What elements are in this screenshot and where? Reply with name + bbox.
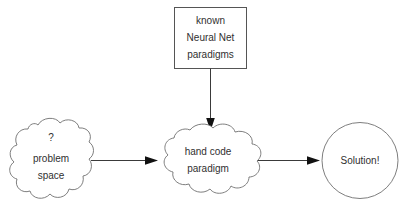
edge-known-to-handcode <box>206 69 215 132</box>
hand-code-paradigm-line2: paradigm <box>187 163 229 174</box>
edge-problem-to-handcode-arrowhead <box>145 156 158 165</box>
hand-code-paradigm-line1: hand code <box>185 146 232 157</box>
hand-code-paradigm-cloud <box>164 124 261 193</box>
known-paradigms-line2: Neural Net <box>187 32 235 43</box>
edge-handcode-to-solution <box>258 156 320 165</box>
problem-space-line1: ? <box>48 132 54 143</box>
node-problem-space[interactable]: ? problem space <box>10 118 94 198</box>
diagram-svg: known Neural Net paradigms ? problem spa… <box>0 0 411 214</box>
edge-handcode-to-solution-arrowhead <box>307 156 320 165</box>
solution-label: Solution! <box>341 155 380 166</box>
node-solution[interactable]: Solution! <box>322 123 398 199</box>
problem-space-line2: problem <box>33 153 69 164</box>
node-hand-code-paradigm[interactable]: hand code paradigm <box>164 124 261 193</box>
known-paradigms-line1: known <box>196 15 225 26</box>
node-known-paradigms[interactable]: known Neural Net paradigms <box>175 8 247 69</box>
edge-problem-to-handcode <box>91 156 158 165</box>
diagram-canvas: known Neural Net paradigms ? problem spa… <box>0 0 411 214</box>
known-paradigms-line3: paradigms <box>187 49 234 60</box>
problem-space-line3: space <box>38 170 65 181</box>
